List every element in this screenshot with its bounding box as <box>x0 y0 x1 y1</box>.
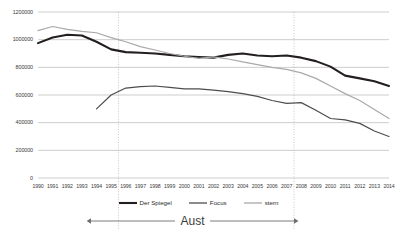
legend-swatch-der-spiegel <box>119 200 137 206</box>
y-axis-tick-label: 200000 <box>0 147 33 153</box>
legend-item-focus: Focus <box>189 199 227 206</box>
y-axis-tick-label: 1200000 <box>0 9 33 15</box>
legend-item-stern: stern <box>244 199 279 206</box>
legend-label-stern: stern <box>265 199 279 206</box>
legend-swatch-focus <box>189 200 207 206</box>
y-axis-tick-label: 0 <box>0 175 33 181</box>
line-chart: 020000040000060000080000010000001200000 … <box>0 0 397 235</box>
legend-item-der-spiegel: Der Spiegel <box>119 199 172 206</box>
y-axis-tick-label: 1000000 <box>0 36 33 42</box>
legend-swatch-stern <box>244 200 262 206</box>
legend-label-der-spiegel: Der Spiegel <box>140 199 172 206</box>
y-axis-tick-label: 400000 <box>0 119 33 125</box>
legend-label-focus: Focus <box>210 199 227 206</box>
y-axis-tick-label: 600000 <box>0 92 33 98</box>
y-axis-tick-label: 800000 <box>0 64 33 70</box>
span-annotation-label: Aust <box>175 214 209 228</box>
x-axis-tick-label: 2014 <box>380 183 397 189</box>
span-annotation-aust: Aust <box>85 211 300 231</box>
chart-legend: Der Spiegel Focus stern <box>0 196 397 209</box>
